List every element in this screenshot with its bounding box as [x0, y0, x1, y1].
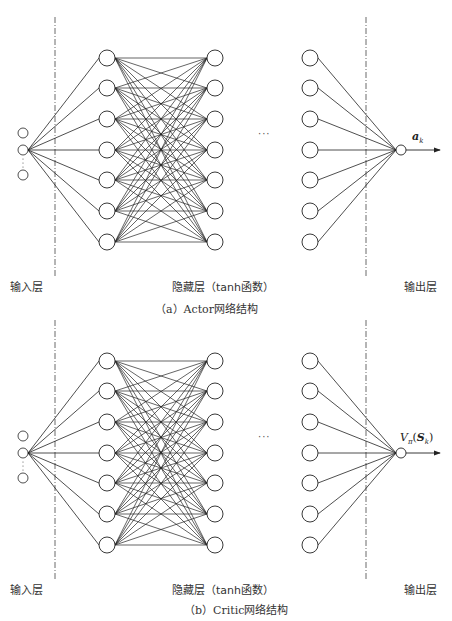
edge-input-hidden — [28, 150, 99, 242]
input-node — [18, 170, 28, 180]
hidden-node-layer-3 — [302, 537, 318, 553]
hidden-node-layer-1 — [99, 111, 115, 127]
output-symbol-v: V — [400, 431, 408, 444]
hidden-node-layer-2 — [207, 383, 223, 399]
hidden-node-layer-2 — [207, 234, 223, 250]
critic-hidden-ellipsis: ··· — [258, 431, 271, 442]
edge-hidden-output — [318, 422, 396, 453]
hidden-node-layer-3 — [302, 111, 318, 127]
hidden-node-layer-2 — [207, 172, 223, 188]
hidden-node-layer-2 — [207, 111, 223, 127]
hidden-node-layer-1 — [99, 80, 115, 96]
hidden-node-layer-2 — [207, 506, 223, 522]
hidden-node-layer-2 — [207, 80, 223, 96]
edge-hidden-output — [318, 150, 396, 211]
edge-input-hidden — [28, 150, 99, 211]
edge-input-hidden — [28, 453, 99, 514]
hidden-node-layer-1 — [99, 353, 115, 369]
hidden-node-layer-1 — [99, 234, 115, 250]
hidden-node-layer-3 — [302, 234, 318, 250]
hidden-node-layer-3 — [302, 445, 318, 461]
hidden-node-layer-1 — [99, 414, 115, 430]
input-ellipsis-dot — [22, 162, 23, 163]
edge-hidden-output — [318, 119, 396, 150]
edge-hidden-output — [318, 361, 396, 453]
critic-output-symbol: Vπ(Sk) — [400, 431, 433, 446]
input-ellipsis-dot — [22, 465, 23, 466]
input-node — [18, 473, 28, 483]
input-node — [18, 145, 28, 155]
hidden-node-layer-3 — [302, 353, 318, 369]
input-ellipsis-dot — [22, 166, 23, 167]
input-ellipsis-dot — [22, 469, 23, 470]
hidden-node-layer-2 — [207, 353, 223, 369]
actor-caption: （a）Actor网络结构 — [155, 300, 258, 316]
hidden-node-layer-1 — [99, 506, 115, 522]
critic-caption: （b）Critic网络结构 — [184, 601, 288, 617]
edge-input-hidden — [28, 361, 99, 453]
hidden-node-layer-3 — [302, 172, 318, 188]
edge-input-hidden — [28, 422, 99, 453]
output-node — [396, 448, 406, 458]
hidden-node-layer-2 — [207, 142, 223, 158]
hidden-node-layer-1 — [99, 537, 115, 553]
hidden-node-layer-1 — [99, 475, 115, 491]
edge-hidden-output — [318, 150, 396, 242]
actor-hidden-ellipsis: ··· — [258, 128, 271, 139]
hidden-node-layer-1 — [99, 383, 115, 399]
output-node — [396, 145, 406, 155]
hidden-node-layer-3 — [302, 203, 318, 219]
edge-input-hidden — [28, 453, 99, 545]
hidden-node-layer-2 — [207, 537, 223, 553]
edge-input-hidden — [28, 150, 99, 180]
hidden-node-layer-3 — [302, 80, 318, 96]
actor-output-layer-label: 输出层 — [404, 278, 437, 294]
hidden-node-layer-2 — [207, 50, 223, 66]
input-node — [18, 128, 28, 138]
hidden-node-layer-3 — [302, 414, 318, 430]
critic-output-layer-label: 输出层 — [404, 581, 437, 597]
hidden-node-layer-1 — [99, 445, 115, 461]
edge-input-hidden — [28, 119, 99, 150]
input-node — [18, 448, 28, 458]
hidden-node-layer-1 — [99, 172, 115, 188]
hidden-node-layer-3 — [302, 142, 318, 158]
hidden-node-layer-2 — [207, 445, 223, 461]
hidden-node-layer-2 — [207, 414, 223, 430]
edge-hidden-output — [318, 453, 396, 514]
hidden-node-layer-3 — [302, 50, 318, 66]
edge-hidden-output — [318, 391, 396, 453]
critic-hidden-layer-label: 隐藏层（tanh函数） — [172, 581, 274, 597]
hidden-node-layer-1 — [99, 50, 115, 66]
edge-hidden-output — [318, 88, 396, 150]
edge-hidden-output — [318, 453, 396, 545]
edge-input-hidden — [28, 453, 99, 483]
edge-hidden-output — [318, 150, 396, 180]
hidden-node-layer-3 — [302, 475, 318, 491]
hidden-node-layer-1 — [99, 142, 115, 158]
actor-hidden-layer-label: 隐藏层（tanh函数） — [172, 278, 274, 294]
hidden-node-layer-3 — [302, 383, 318, 399]
hidden-node-layer-1 — [99, 203, 115, 219]
input-node — [18, 431, 28, 441]
critic-input-layer-label: 输入层 — [10, 581, 43, 597]
edge-input-hidden — [28, 88, 99, 150]
critic-network-diagram — [18, 320, 440, 581]
edge-hidden-output — [318, 58, 396, 150]
hidden-node-layer-2 — [207, 203, 223, 219]
hidden-node-layer-3 — [302, 506, 318, 522]
hidden-node-layer-2 — [207, 475, 223, 491]
actor-output-symbol: ak — [412, 130, 423, 145]
actor-input-layer-label: 输入层 — [10, 278, 43, 294]
output-arg-s: S — [417, 431, 425, 444]
output-subscript-k: k — [419, 137, 423, 145]
edge-input-hidden — [28, 391, 99, 453]
actor-network-diagram — [18, 17, 440, 278]
input-ellipsis-dot — [22, 461, 23, 462]
edge-input-hidden — [28, 58, 99, 150]
input-ellipsis-dot — [22, 158, 23, 159]
edge-hidden-output — [318, 453, 396, 483]
